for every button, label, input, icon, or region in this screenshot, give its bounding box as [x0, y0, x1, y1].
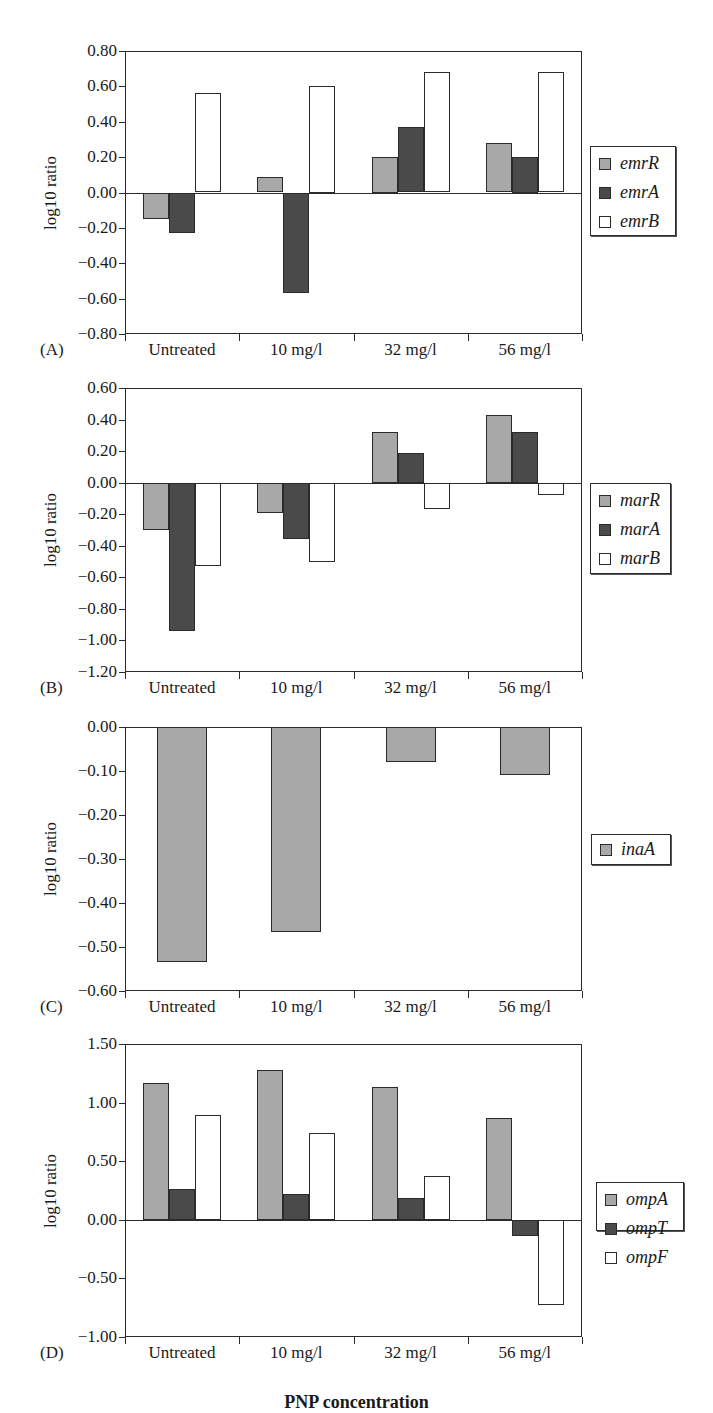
legend-label: emrR — [620, 153, 659, 174]
legend-swatch-icon — [605, 1223, 617, 1235]
x-category-label: 32 mg/l — [354, 1343, 468, 1363]
y-tick-mark — [119, 1278, 125, 1279]
y-tick-mark — [119, 299, 125, 300]
x-category-label: Untreated — [125, 340, 239, 360]
bar-emrA-1 — [283, 193, 309, 294]
bar-inaA-0 — [157, 727, 207, 962]
y-tick-label: 0.40 — [47, 113, 117, 131]
y-tick-label: −0.50 — [47, 1269, 117, 1287]
y-tick-mark — [119, 577, 125, 578]
x-axis-title: PNP concentration — [0, 1392, 713, 1413]
legend-swatch-icon — [605, 1252, 617, 1264]
bar-marB-0 — [195, 483, 221, 567]
x-category-label: 56 mg/l — [468, 997, 582, 1017]
x-category-label: Untreated — [125, 1343, 239, 1363]
bar-inaA-1 — [271, 727, 321, 932]
y-tick-mark — [119, 514, 125, 515]
x-category-label: 32 mg/l — [354, 340, 468, 360]
y-tick-mark — [119, 640, 125, 641]
legend-label: emrB — [620, 211, 659, 232]
x-category-label: 10 mg/l — [239, 678, 353, 698]
y-tick-mark — [119, 193, 125, 194]
y-tick-label: −0.60 — [47, 290, 117, 308]
y-tick-label: 1.00 — [47, 1094, 117, 1112]
bar-emrA-3 — [512, 157, 538, 192]
bar-marA-1 — [283, 483, 309, 540]
x-tick-mark — [582, 991, 583, 998]
y-tick-mark — [119, 947, 125, 948]
legend-swatch-icon — [605, 1194, 617, 1206]
x-tick-mark — [582, 672, 583, 679]
legend-swatch-icon — [599, 216, 611, 228]
x-tick-mark — [582, 334, 583, 341]
y-tick-mark — [119, 157, 125, 158]
y-tick-mark — [119, 727, 125, 728]
bar-marB-1 — [309, 483, 335, 562]
bar-inaA-2 — [386, 727, 436, 762]
legend-swatch-icon — [599, 553, 611, 565]
y-tick-mark — [119, 903, 125, 904]
y-tick-mark — [119, 451, 125, 452]
legend: emrRemrAemrB — [590, 146, 676, 236]
legend-item-marR: marR — [599, 486, 662, 515]
x-category-label: 10 mg/l — [239, 340, 353, 360]
x-category-label: 32 mg/l — [354, 997, 468, 1017]
legend: marRmarAmarB — [590, 483, 671, 574]
legend-label: emrA — [620, 182, 659, 203]
bar-marB-2 — [424, 483, 450, 510]
legend-label: ompA — [626, 1189, 668, 1210]
bar-marR-1 — [257, 483, 283, 513]
x-category-label: 56 mg/l — [468, 340, 582, 360]
legend-item-emrR: emrR — [599, 149, 667, 178]
bar-ompA-2 — [372, 1087, 398, 1219]
y-tick-mark — [119, 771, 125, 772]
y-tick-mark — [119, 609, 125, 610]
bar-emrR-2 — [372, 157, 398, 192]
legend-label: ompT — [626, 1218, 667, 1239]
legend-label: marB — [620, 548, 660, 569]
y-tick-label: −0.80 — [47, 600, 117, 618]
y-axis-title: log10 ratio — [41, 133, 61, 253]
bar-ompF-1 — [309, 1133, 335, 1220]
bar-marA-3 — [512, 432, 538, 482]
bar-ompA-3 — [486, 1118, 512, 1220]
bar-inaA-3 — [500, 727, 550, 775]
y-tick-mark — [119, 228, 125, 229]
bar-ompF-2 — [424, 1176, 450, 1219]
x-category-label: 10 mg/l — [239, 1343, 353, 1363]
legend-label: inaA — [621, 839, 655, 860]
bar-emrR-0 — [143, 193, 169, 220]
bar-emrB-0 — [195, 93, 221, 192]
bar-emrB-1 — [309, 86, 335, 192]
panel-label: (D) — [40, 1343, 64, 1363]
x-category-label: 10 mg/l — [239, 997, 353, 1017]
bar-emrA-0 — [169, 193, 195, 234]
legend-item-ompA: ompA — [605, 1185, 675, 1214]
bar-marA-0 — [169, 483, 195, 631]
y-tick-label: −0.40 — [47, 254, 117, 272]
x-category-label: Untreated — [125, 997, 239, 1017]
y-tick-mark — [119, 483, 125, 484]
bar-emrB-3 — [538, 72, 564, 192]
panel-label: (C) — [40, 997, 63, 1017]
legend-item-ompT: ompT — [605, 1214, 675, 1243]
y-tick-label: −0.50 — [47, 938, 117, 956]
legend-item-marB: marB — [599, 544, 662, 573]
legend-item-emrB: emrB — [599, 207, 667, 236]
bar-ompT-3 — [512, 1220, 538, 1236]
y-tick-mark — [119, 86, 125, 87]
y-axis-title: log10 ratio — [41, 470, 61, 590]
legend-swatch-icon — [599, 524, 611, 536]
legend-label: ompF — [626, 1247, 668, 1268]
legend-item-inaA: inaA — [600, 836, 662, 863]
y-tick-mark — [119, 420, 125, 421]
legend-label: marA — [620, 519, 660, 540]
bar-marA-2 — [398, 453, 424, 483]
panel-label: (A) — [40, 340, 64, 360]
legend-swatch-icon — [599, 187, 611, 199]
bar-ompT-2 — [398, 1198, 424, 1220]
y-tick-label: 0.20 — [47, 442, 117, 460]
bar-marR-3 — [486, 415, 512, 483]
y-tick-mark — [119, 51, 125, 52]
x-category-label: 32 mg/l — [354, 678, 468, 698]
